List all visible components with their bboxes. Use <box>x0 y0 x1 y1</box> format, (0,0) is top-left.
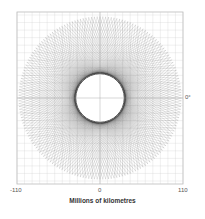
angle-marker-label: 0° <box>185 94 191 100</box>
x-tick-max: 110 <box>178 187 188 193</box>
x-axis-label: Millions of kilometres <box>0 197 205 204</box>
x-tick-zero: 0 <box>98 187 101 193</box>
chord-pattern-chart <box>0 0 205 219</box>
x-tick-min: -110 <box>10 187 22 193</box>
